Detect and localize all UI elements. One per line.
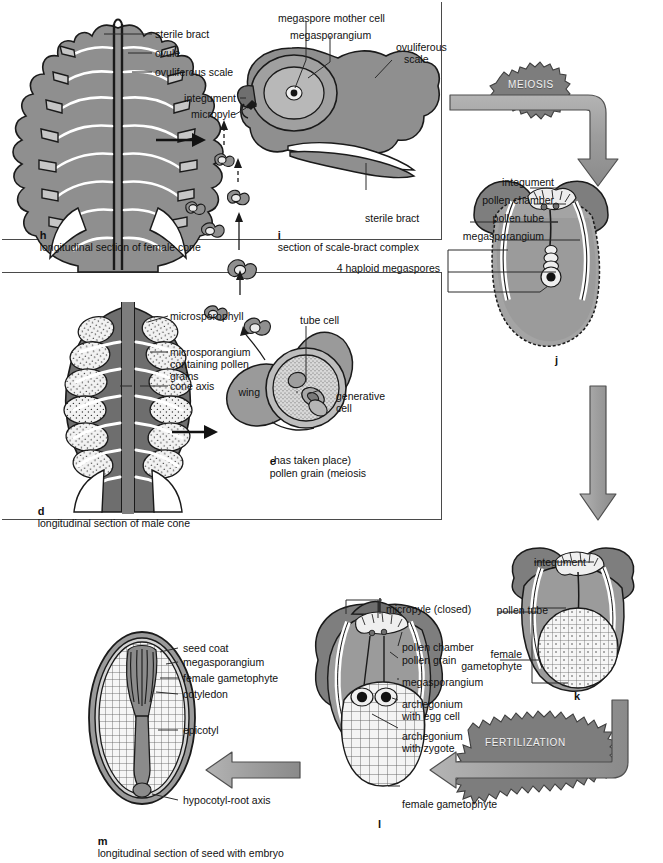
caption-h-text: longitudinal section of female cone [40,241,201,253]
plate-j: j [555,354,558,366]
male-cone-illustration [64,302,193,514]
plate-m: m [98,835,108,847]
label-pollen-chamber-l: pollen chamber [402,641,474,654]
label-ovuliferous-i-line1: ovuliferous [396,41,447,54]
caption-female-cone: h longitudinal section of female cone [28,216,201,266]
label-megasporangium-l: megasporangium [402,676,483,689]
label-female-gametophyte-l: female gametophyte [402,798,497,811]
label-micropyle-closed: micropyle (closed) [386,603,471,616]
label-with-zygote: with zygote [402,742,455,755]
label-ovuliferous-scale-h: ovuliferous scale [155,66,233,79]
label-female-gametophyte-m: female gametophyte [183,672,278,685]
gametophyte-illustration [512,548,634,691]
caption-pollen-grain-2: has taken place) [274,454,351,467]
plate-l: l [378,818,381,830]
label-generative-cell: cell [336,402,352,415]
caption-pollen-grain: e pollen grain (meiosis [258,442,366,492]
seed-illustration [89,632,195,804]
label-epicotyl: epicotyl [183,724,219,737]
caption-m-text: longitudinal section of seed with embryo [98,847,284,859]
label-containing-pollen: containing pollen [170,358,249,371]
caption-e-text-1: pollen grain (meiosis [270,467,366,479]
plate-h: h [40,229,47,241]
arrow-j-to-k [580,386,616,520]
fertilization-burst [452,711,617,804]
label-cone-axis: cone axis [170,380,214,393]
plate-d: d [38,505,45,517]
label-microsporophyll: microsporophyll [170,310,244,323]
label-megasporangium-m: megasporangium [183,656,264,669]
meiosis-badge-label: MEIOSIS [508,79,554,90]
fertilization-badge-label: FERTILIZATION [485,737,566,748]
label-ovuliferous-i-line2: scale [404,53,429,66]
label-megasporangium-j: megasporangium [400,230,544,243]
label-wing: wing [222,386,260,399]
label-integument-i: integument [170,92,236,105]
arrow-meiosis-elbow [450,95,618,186]
label-hypocotyl-root-axis: hypocotyl-root axis [183,794,271,807]
plate-i: i [278,229,281,241]
fertilized-ovule-illustration [316,602,443,787]
label-megaspore-mother-cell: megaspore mother cell [278,12,385,25]
plate-k: k [574,690,580,702]
label-pollen-grain-l: pollen grain [402,654,456,667]
label-pollen-tube-j: pollen tube [432,212,544,225]
label-with-egg-cell: with egg cell [402,710,460,723]
label-megasporangium-i: megasporangium [290,29,371,42]
label-pollen-chamber-j: pollen chamber [430,194,554,207]
label-archegonium-zygote: archegonium [402,730,463,743]
caption-male-cone: d longitudinal section of male cone [26,492,190,542]
label-4-haploid-megaspores: 4 haploid megaspores [300,262,440,275]
caption-scale-bract: i section of scale-bract complex [266,216,419,266]
caption-i-text: section of scale-bract complex [278,241,419,253]
caption-seed: m longitudinal section of seed with embr… [86,822,284,863]
label-integument-j: integument [440,176,554,189]
label-sterile-bract-h: sterile bract [155,28,209,41]
label-micropyle-i: micropyle [170,108,236,121]
label-generative: generative [336,390,385,403]
label-integument-k: integument [462,556,586,569]
label-seed-coat: seed coat [183,642,229,655]
label-microsporangium: microsporangium [170,346,251,359]
label-cotyledon: cotyledon [183,688,228,701]
caption-d-text: longitudinal section of male cone [38,517,190,529]
label-archegonium-egg: archegonium [402,698,463,711]
label-ovule-h: ovule [155,47,180,60]
pollen-grain-illustration [217,325,360,436]
label-tube-cell: tube cell [300,314,339,327]
arrow-l-to-m [206,752,300,788]
scale-bract-illustration [238,48,440,178]
